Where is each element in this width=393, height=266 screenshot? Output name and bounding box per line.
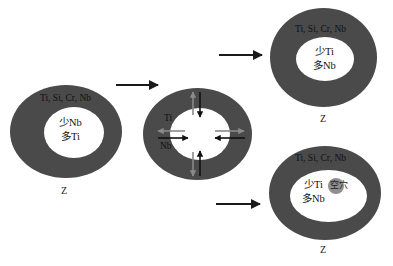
- caption-z: Z: [320, 245, 326, 255]
- ti-diffusion-label: Ti: [164, 114, 172, 124]
- core-line-2: 多Nb: [302, 192, 325, 206]
- shell-composition-label: Ti, Si, Cr, Nb: [295, 25, 346, 35]
- core-line-1: 少Ti: [313, 45, 336, 59]
- core-composition-label: 少Ti 多Nb: [302, 178, 325, 206]
- core-line-2: 多Ti: [59, 130, 82, 144]
- caption-z: Z: [320, 114, 326, 124]
- core-composition-label: 少Ti 多Nb: [313, 45, 336, 73]
- shell-composition-label: Ti, Si, Cr, Nb: [295, 154, 346, 164]
- caption-z: Z: [61, 186, 67, 196]
- void-label: 空穴: [330, 181, 348, 190]
- nb-diffusion-label: Nb: [160, 142, 172, 152]
- core-line-2: 多Nb: [313, 59, 336, 73]
- shell-composition-label: Ti, Si, Cr, Nb: [40, 94, 91, 104]
- core-line-1: 少Ti: [302, 178, 325, 192]
- core-line-1: 少Nb: [59, 116, 82, 130]
- particle-diffusion: [143, 88, 252, 180]
- core-composition-label: 少Nb 多Ti: [59, 116, 82, 144]
